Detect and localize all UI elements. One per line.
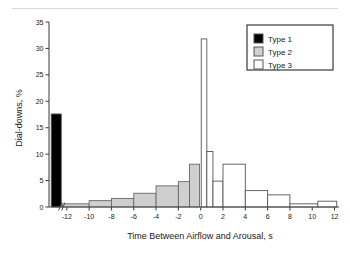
x-tick-label: -10 <box>84 213 94 220</box>
y-axis: 05101520253035 <box>36 19 49 211</box>
x-tick-label: -8 <box>108 213 114 220</box>
x-tick-label: 10 <box>308 213 316 220</box>
legend-swatch-type-2 <box>254 47 263 56</box>
bar-type-2-1 <box>89 201 111 207</box>
y-tick-label: 15 <box>36 124 44 131</box>
x-axis: -12-10-8-6-4-2024681012 <box>49 207 339 220</box>
y-tick-label: 20 <box>36 98 44 105</box>
x-tick-label: -6 <box>131 213 137 220</box>
histogram-figure: 05101520253035 -12-10-8-6-4-2024681012 D… <box>0 0 350 253</box>
bar-type-2-6 <box>190 164 200 207</box>
legend-swatch-type-3 <box>254 60 263 69</box>
legend-label-type-1: Type 1 <box>268 35 293 44</box>
bar-type-2-5 <box>178 182 189 207</box>
y-tick-label: 25 <box>36 71 44 78</box>
bar-type-3-0 <box>201 39 207 207</box>
x-tick-label: 8 <box>288 213 292 220</box>
bar-type-3-4 <box>245 191 267 207</box>
legend-label-type-2: Type 2 <box>268 48 293 57</box>
x-tick-label: -4 <box>153 213 159 220</box>
x-tick-label: 6 <box>266 213 270 220</box>
y-axis-title: Dial-downs, % <box>14 89 24 147</box>
bar-type-2-2 <box>111 199 133 207</box>
y-tick-label: 35 <box>36 19 44 26</box>
bar-type-3-7 <box>318 201 337 207</box>
x-axis-title: Time Between Airflow and Arousal, s <box>127 231 273 241</box>
bar-type-2-4 <box>156 186 178 207</box>
bar-type-3-3 <box>223 164 245 207</box>
legend-swatch-type-1 <box>254 34 263 43</box>
x-tick-label: 2 <box>221 213 225 220</box>
legend-label-type-3: Type 3 <box>268 61 293 70</box>
x-tick-label: 4 <box>243 213 247 220</box>
x-tick-label: -12 <box>62 213 72 220</box>
x-tick-label: -2 <box>175 213 181 220</box>
y-tick-label: 5 <box>40 177 44 184</box>
y-tick-label: 10 <box>36 151 44 158</box>
bar-type-3-2 <box>213 181 223 207</box>
bar-type-1-0 <box>51 114 61 207</box>
bar-type-2-3 <box>134 193 156 207</box>
x-tick-label: 0 <box>199 213 203 220</box>
chart-canvas: 05101520253035 -12-10-8-6-4-2024681012 D… <box>0 0 350 253</box>
bar-type-3-1 <box>207 152 213 208</box>
y-tick-label: 30 <box>36 45 44 52</box>
x-tick-label: 12 <box>331 213 339 220</box>
y-tick-label: 0 <box>40 204 44 211</box>
legend: Type 1Type 2Type 3 <box>247 25 333 70</box>
bar-type-3-5 <box>268 195 290 207</box>
